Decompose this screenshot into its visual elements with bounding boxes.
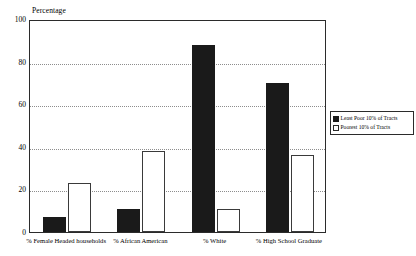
y-axis-tick-label: 80 xyxy=(2,59,26,67)
bar xyxy=(142,151,165,232)
bar-group xyxy=(43,21,91,232)
bar-group xyxy=(117,21,165,232)
bar-group xyxy=(192,21,240,232)
bar xyxy=(217,209,240,232)
bar-group xyxy=(266,21,314,232)
y-axis-tick-label: 100 xyxy=(2,16,26,24)
y-axis-tick-label: 0 xyxy=(2,229,26,237)
chart-legend: Least Poor 10% of TractsPoorest 10% of T… xyxy=(330,111,414,135)
x-axis-tick-label: % White xyxy=(203,236,226,245)
legend-item-label: Least Poor 10% of Tracts xyxy=(341,115,398,122)
x-axis-tick-label: % African American xyxy=(113,236,167,245)
plot-area xyxy=(29,20,326,233)
x-axis-tick-label: % High School Graduate xyxy=(256,236,322,245)
bar xyxy=(117,209,140,232)
bar-chart: Percentage 020406080100 % Female Headed … xyxy=(0,0,416,256)
legend-item-label: Poorest 10% of Tracts xyxy=(341,124,391,131)
legend-item[interactable]: Least Poor 10% of Tracts xyxy=(333,114,411,123)
bar xyxy=(266,83,289,232)
legend-swatch-dark-icon xyxy=(333,116,339,122)
y-axis-title: Percentage xyxy=(32,6,66,15)
y-axis-tick-labels: 020406080100 xyxy=(0,20,26,233)
bar xyxy=(291,155,314,232)
y-axis-tick-label: 60 xyxy=(2,101,26,109)
x-axis-tick-label: % Female Headed households xyxy=(26,236,106,245)
y-axis-tick-label: 40 xyxy=(2,144,26,152)
legend-swatch-light-icon xyxy=(333,125,339,131)
x-axis-tick-labels: % Female Headed households% African Amer… xyxy=(29,236,326,250)
bar xyxy=(192,45,215,232)
bar xyxy=(68,183,91,232)
y-axis-tick-label: 20 xyxy=(2,186,26,194)
legend-item[interactable]: Poorest 10% of Tracts xyxy=(333,123,411,132)
bar xyxy=(43,217,66,232)
